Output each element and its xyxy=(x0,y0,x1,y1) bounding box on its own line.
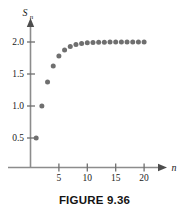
data-point xyxy=(90,40,95,45)
x-tick-label-15: 15 xyxy=(111,173,121,183)
x-tick-label-20: 20 xyxy=(139,173,149,183)
data-point xyxy=(79,41,84,46)
data-point xyxy=(142,40,147,45)
y-axis-label-subscript: n xyxy=(30,13,34,21)
data-point xyxy=(39,104,44,109)
data-point xyxy=(73,42,78,47)
data-point xyxy=(34,136,39,141)
y-tick-label-1-5: 1.5 xyxy=(12,69,24,79)
figure-container: 2.0 1.5 1.0 0.5 5 10 15 20 S n n FIGURE … xyxy=(0,0,189,208)
y-axis-label: S xyxy=(23,7,28,18)
data-point xyxy=(96,40,101,45)
partial-sums-scatter-plot: 2.0 1.5 1.0 0.5 5 10 15 20 S n n xyxy=(0,0,189,208)
x-tick-label-10: 10 xyxy=(83,173,93,183)
data-point xyxy=(85,40,90,45)
data-point-layer xyxy=(34,40,147,141)
y-tick-label-2-0: 2.0 xyxy=(12,37,24,47)
data-point xyxy=(45,80,50,85)
data-point xyxy=(119,40,124,45)
data-point xyxy=(62,48,67,53)
data-point xyxy=(113,40,118,45)
data-point xyxy=(108,40,113,45)
data-point xyxy=(102,40,107,45)
data-point xyxy=(125,40,130,45)
x-axis-arrow-icon xyxy=(158,164,167,171)
data-point xyxy=(56,54,61,59)
y-tick-label-0-5: 0.5 xyxy=(12,133,24,143)
data-point xyxy=(136,40,141,45)
y-tick-label-1-0: 1.0 xyxy=(12,101,24,111)
x-axis-label: n xyxy=(172,162,177,173)
x-tick-label-5: 5 xyxy=(57,173,62,183)
data-point xyxy=(51,64,56,69)
figure-caption: FIGURE 9.36 xyxy=(0,194,189,206)
data-point xyxy=(130,40,135,45)
data-point xyxy=(68,44,73,49)
